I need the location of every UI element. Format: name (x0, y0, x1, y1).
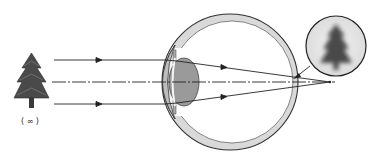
hyperopia-diagram (0, 0, 380, 158)
focal-point (329, 81, 331, 83)
blurred-image-inset (306, 16, 366, 76)
object-label: ( ∞ ) (21, 117, 39, 126)
object-tree-icon (14, 53, 49, 108)
